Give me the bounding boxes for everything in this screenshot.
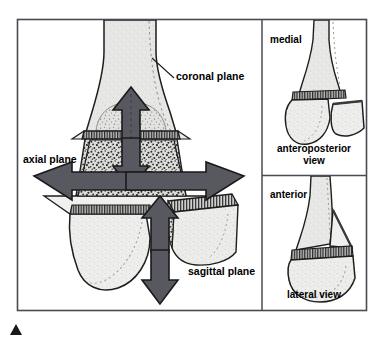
label-axial-plane: axial plane: [23, 153, 77, 165]
physis-band-lower-left: [70, 205, 150, 214]
label-sagittal-plane: sagittal plane: [188, 265, 255, 277]
label-anterior: anterior: [270, 189, 307, 200]
label-medial: medial: [270, 34, 302, 45]
ap-physis-band: [292, 90, 346, 100]
anatomical-diagram-svg: coronal plane axial plane sagittal plane…: [0, 0, 385, 340]
caption-anteroposterior-view-line2: view: [303, 155, 325, 166]
caption-anteroposterior-view-line1: anteroposterior: [277, 143, 351, 154]
corner-triangle-marker: [10, 324, 22, 335]
label-coronal-plane: coronal plane: [176, 70, 244, 82]
caption-lateral-view: lateral view: [287, 289, 341, 300]
sagittal-block: [167, 194, 238, 265]
figure-root: coronal plane axial plane sagittal plane…: [0, 0, 385, 340]
